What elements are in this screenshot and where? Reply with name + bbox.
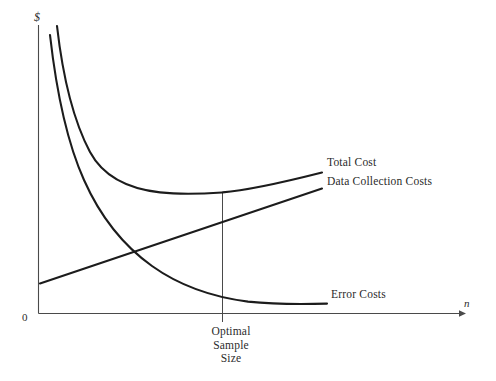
optimal-annotation-line-2: Sample [199, 339, 263, 353]
origin-label: 0 [22, 311, 28, 323]
optimal-sample-size-annotation: Optimal Sample Size [199, 325, 263, 366]
total-cost-curve [57, 26, 322, 194]
x-axis-label: n [464, 297, 470, 309]
series-label-data-collection-costs: Data Collection Costs [327, 175, 432, 187]
cost-vs-sample-size-chart: $ n 0 Total Cost Data Collection Costs E… [0, 0, 496, 381]
series-label-total-cost: Total Cost [327, 156, 376, 168]
chart-canvas [0, 0, 496, 381]
optimal-annotation-line-1: Optimal [199, 325, 263, 339]
series-label-error-costs: Error Costs [331, 288, 386, 300]
data-collection-costs-line [40, 189, 322, 284]
error-costs-curve [50, 35, 327, 304]
optimal-annotation-line-3: Size [199, 352, 263, 366]
x-axis-arrowhead [459, 310, 466, 316]
y-axis-label: $ [34, 10, 40, 25]
